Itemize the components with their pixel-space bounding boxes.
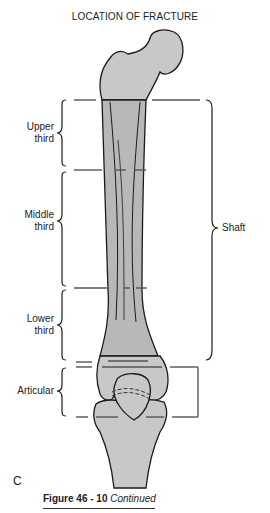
brace-middle — [57, 172, 66, 286]
brace-lower — [57, 290, 66, 360]
femur-knee-diagram — [0, 0, 270, 513]
label-middle-third: Middle third — [10, 209, 54, 233]
femur-head — [100, 30, 183, 100]
label-upper-third: Upper third — [10, 121, 54, 145]
label-upper-line1: Upper — [10, 121, 54, 133]
label-lower-line2: third — [10, 325, 54, 337]
caption-figure-number: Figure 46 - 10 — [43, 493, 107, 504]
brace-upper — [57, 100, 66, 166]
label-middle-line1: Middle — [10, 209, 54, 221]
brace-shaft — [206, 100, 218, 360]
diagram-title: LOCATION OF FRACTURE — [0, 11, 270, 22]
label-lower-third: Lower third — [10, 313, 54, 337]
panel-letter: C — [13, 474, 22, 488]
caption-note: Continued — [110, 493, 156, 504]
femur-shaft — [100, 100, 158, 356]
label-shaft: Shaft — [222, 222, 245, 234]
label-lower-line1: Lower — [10, 313, 54, 325]
label-upper-line2: third — [10, 133, 54, 145]
caption-underline — [43, 508, 155, 509]
label-articular: Articular — [4, 385, 54, 397]
brace-articular — [57, 368, 66, 416]
figure-caption: Figure 46 - 10 Continued — [43, 493, 156, 504]
label-middle-line2: third — [10, 221, 54, 233]
